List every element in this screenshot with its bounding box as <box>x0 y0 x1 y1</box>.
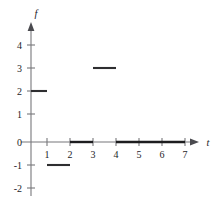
piecewise-function-plot: 4 3 2 1 0 -1 -2 1 2 3 4 5 6 7 f t <box>0 0 217 204</box>
y-tick-label-neg1: -1 <box>14 160 22 171</box>
x-tick-label-4: 4 <box>114 149 119 160</box>
x-tick-label-2: 2 <box>68 149 73 160</box>
y-tick-label-0: 0 <box>17 137 22 148</box>
y-tick-label-1: 1 <box>17 109 22 120</box>
x-axis-label: t <box>207 137 211 148</box>
x-tick-label-1: 1 <box>45 149 50 160</box>
y-axis-label: f <box>35 8 40 19</box>
y-tick-label-neg2: -2 <box>14 183 22 194</box>
y-tick-label-2: 2 <box>17 86 22 97</box>
x-tick-label-6: 6 <box>160 149 165 160</box>
x-tick-label-5: 5 <box>137 149 142 160</box>
y-tick-label-3: 3 <box>17 63 22 74</box>
x-tick-label-7: 7 <box>183 149 188 160</box>
plot-figure: 4 3 2 1 0 -1 -2 1 2 3 4 5 6 7 f t <box>0 0 217 204</box>
x-tick-label-3: 3 <box>91 149 96 160</box>
y-tick-label-4: 4 <box>17 40 22 51</box>
x-axis-arrow-icon <box>190 139 199 146</box>
y-axis-arrow-icon <box>28 22 35 31</box>
